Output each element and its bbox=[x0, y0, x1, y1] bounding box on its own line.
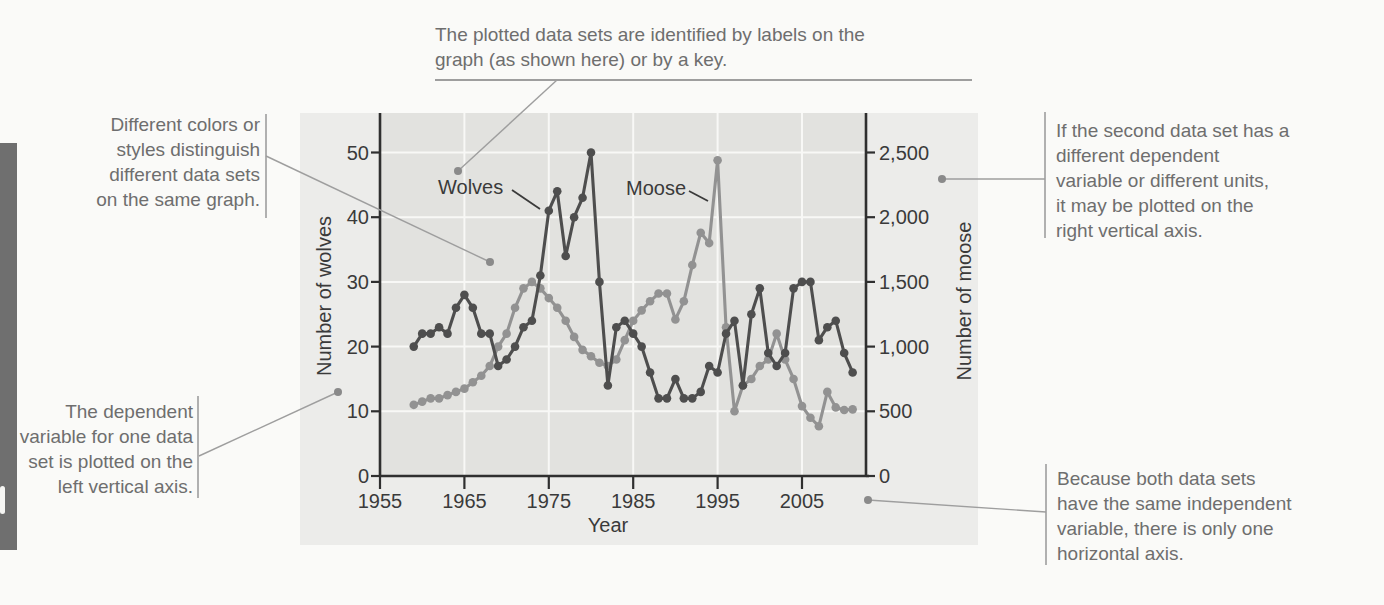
moose-point bbox=[418, 397, 427, 406]
wolves-point bbox=[595, 278, 604, 287]
wolves-point bbox=[469, 303, 478, 312]
wolves-point bbox=[460, 291, 469, 300]
series-label-moose: Moose bbox=[626, 177, 686, 200]
moose-point bbox=[545, 294, 554, 303]
annotation-line: The dependent bbox=[8, 399, 193, 424]
wolves-point bbox=[519, 323, 528, 332]
moose-point bbox=[469, 378, 478, 387]
moose-point bbox=[477, 371, 486, 380]
moose-point bbox=[620, 336, 629, 345]
wolves-point bbox=[485, 329, 494, 338]
wolves-point bbox=[502, 355, 511, 364]
y-tick-label-left: 20 bbox=[309, 335, 369, 359]
moose-point bbox=[680, 297, 689, 306]
wolves-point bbox=[798, 278, 807, 287]
wolves-point bbox=[663, 394, 672, 403]
annotation-line: variable or different units, bbox=[1056, 168, 1321, 193]
annotation-colors-styles: Different colors or styles distinguish d… bbox=[40, 112, 260, 212]
wolves-point bbox=[713, 368, 722, 377]
wolves-point bbox=[528, 316, 537, 325]
moose-point bbox=[646, 297, 655, 306]
x-tick-label: 1995 bbox=[678, 489, 758, 513]
annotation-pointer-dot bbox=[334, 388, 342, 396]
annotation-line: Because both data sets bbox=[1057, 466, 1332, 491]
annotation-line: If the second data set has a bbox=[1056, 118, 1321, 143]
wolves-point bbox=[739, 381, 748, 390]
wolves-point bbox=[587, 148, 596, 157]
wolves-point bbox=[705, 362, 714, 371]
moose-point bbox=[511, 303, 520, 312]
wolves-point bbox=[815, 336, 824, 345]
y-tick-label-right: 1,500 bbox=[879, 270, 949, 294]
x-tick-label: 1955 bbox=[340, 489, 420, 513]
annotation-pointer-dot bbox=[486, 258, 494, 266]
moose-point bbox=[848, 405, 857, 414]
annotation-line: styles distinguish bbox=[40, 137, 260, 162]
y-tick-label-right: 1,000 bbox=[879, 335, 949, 359]
wolves-point bbox=[840, 349, 849, 358]
annotation-line: different data sets bbox=[40, 162, 260, 187]
annotation-line: graph (as shown here) or by a key. bbox=[435, 47, 995, 72]
wolves-point bbox=[823, 323, 832, 332]
annotation-line: on the same graph. bbox=[40, 187, 260, 212]
y-tick-label-left: 10 bbox=[309, 399, 369, 423]
y-tick-label-right: 0 bbox=[879, 464, 949, 488]
wolves-point bbox=[781, 349, 790, 358]
annotation-line: variable for one data bbox=[8, 424, 193, 449]
y-tick-label-left: 0 bbox=[309, 464, 369, 488]
wolves-point bbox=[536, 271, 545, 280]
wolves-point bbox=[671, 375, 680, 384]
moose-point bbox=[789, 375, 798, 384]
wolves-point bbox=[646, 368, 655, 377]
wolves-point bbox=[764, 349, 773, 358]
wolves-point bbox=[409, 342, 418, 351]
moose-point bbox=[747, 375, 756, 384]
wolves-point bbox=[494, 362, 503, 371]
annotation-line: it may be plotted on the bbox=[1056, 193, 1321, 218]
wolves-point bbox=[604, 381, 613, 390]
moose-point bbox=[756, 362, 765, 371]
moose-point bbox=[840, 406, 849, 415]
wolves-point bbox=[688, 394, 697, 403]
moose-point bbox=[705, 239, 714, 248]
annotation-line: The plotted data sets are identified by … bbox=[435, 22, 995, 47]
annotation-line: left vertical axis. bbox=[8, 474, 193, 499]
wolves-point bbox=[747, 310, 756, 319]
wolves-point bbox=[620, 316, 629, 325]
wolves-point bbox=[654, 394, 663, 403]
wolves-point bbox=[680, 394, 689, 403]
annotation-underline bbox=[435, 79, 972, 81]
y-tick-label-right: 2,500 bbox=[879, 141, 949, 165]
moose-point bbox=[409, 401, 418, 410]
figure-page: The plotted data sets are identified by … bbox=[0, 0, 1384, 605]
moose-point bbox=[806, 413, 815, 422]
wolves-point bbox=[443, 329, 452, 338]
annotation-line: variable, there is only one bbox=[1057, 516, 1332, 541]
wolves-point bbox=[578, 193, 587, 202]
moose-point bbox=[443, 391, 452, 400]
moose-point bbox=[713, 156, 722, 165]
moose-point bbox=[671, 315, 680, 324]
x-tick-label: 1985 bbox=[593, 489, 673, 513]
annotation-pointer-dot bbox=[938, 175, 946, 183]
moose-point bbox=[823, 388, 832, 397]
wolves-point bbox=[452, 303, 461, 312]
wolves-point bbox=[612, 323, 621, 332]
moose-point bbox=[730, 407, 739, 416]
wolves-point bbox=[637, 342, 646, 351]
moose-point bbox=[595, 358, 604, 367]
wolves-point bbox=[696, 388, 705, 397]
wolves-point bbox=[426, 329, 435, 338]
wolves-point bbox=[629, 329, 638, 338]
moose-point bbox=[528, 278, 537, 287]
moose-point bbox=[578, 346, 587, 355]
moose-point bbox=[696, 228, 705, 237]
moose-point bbox=[519, 284, 528, 293]
moose-point bbox=[587, 352, 596, 361]
wolves-point bbox=[756, 284, 765, 293]
annotation-line: have the same independent bbox=[1057, 491, 1332, 516]
moose-point bbox=[561, 316, 570, 325]
wolves-point bbox=[553, 187, 562, 196]
series-label-wolves: Wolves bbox=[438, 176, 503, 199]
annotation-line: horizontal axis. bbox=[1057, 541, 1332, 566]
